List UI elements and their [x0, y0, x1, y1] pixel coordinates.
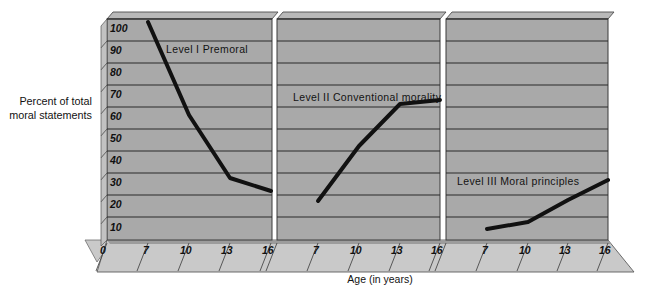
y-axis-title-line-2: moral statements [9, 109, 92, 121]
moral-development-line-chart: Level I Premoral Level II Conventional m… [0, 0, 654, 288]
y-tick-50: 50 [110, 132, 122, 144]
x-tick-p2-16: 16 [431, 244, 443, 256]
panel-1-group: Level I Premoral [101, 12, 278, 246]
y-axis-title: Percent of total moral statements [9, 95, 92, 121]
base-plane-main [97, 240, 634, 272]
y-tick-90: 90 [110, 44, 122, 56]
x-tick-p3-13: 13 [559, 244, 571, 256]
panel-1-top-bevel [107, 12, 278, 19]
x-tick-p3-16: 16 [599, 244, 611, 256]
x-tick-p2-10: 10 [350, 244, 362, 256]
chart-figure: Level I Premoral Level II Conventional m… [0, 0, 654, 288]
y-tick-10: 10 [110, 221, 122, 233]
panel-1-left-bevels [101, 19, 107, 246]
panel-3-series-label: Level III Moral principles [457, 175, 579, 187]
x-tick-p3-10: 10 [519, 244, 531, 256]
y-tick-40: 40 [109, 154, 122, 166]
y-tick-30: 30 [110, 176, 122, 188]
panel-3-group: Level III Moral principles [446, 12, 614, 240]
x-tick-p1-13: 13 [221, 244, 233, 256]
x-tick-p1-16: 16 [262, 244, 274, 256]
panel-3-top-bevel [446, 12, 614, 19]
x-tick-p2-13: 13 [391, 244, 403, 256]
y-tick-20: 20 [109, 198, 122, 210]
panel-2-top-bevel [277, 12, 446, 19]
y-tick-60: 60 [110, 110, 122, 122]
x-axis-title: Age (in years) [347, 273, 412, 285]
y-tick-100: 100 [110, 22, 128, 34]
y-axis-title-line-1: Percent of total [19, 95, 92, 107]
y-tick-80: 80 [110, 66, 122, 78]
panel-2-group: Level II Conventional morality [277, 12, 446, 240]
panel-1-series-label: Level I Premoral [166, 43, 248, 55]
panel-2-series-label: Level II Conventional morality [293, 91, 442, 103]
x-tick-p1-0: 0 [100, 244, 106, 256]
x-tick-p1-10: 10 [180, 244, 192, 256]
y-tick-70: 70 [110, 88, 122, 100]
